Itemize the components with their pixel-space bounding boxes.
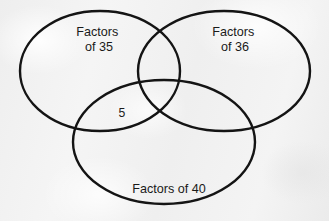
label-factors-of-35-line2: of 35 xyxy=(85,40,113,54)
region-label-value: 5 xyxy=(119,106,126,120)
venn-diagram-canvas: Factors of 35 Factors of 36 Factors of 4… xyxy=(0,0,329,221)
label-factors-of-36-line1: Factors xyxy=(212,25,254,39)
label-factors-of-35-line1: Factors xyxy=(76,25,118,39)
label-factors-of-40: Factors of 40 xyxy=(132,182,206,196)
label-factors-of-40-line1: Factors of 40 xyxy=(132,182,206,196)
label-factors-of-35: Factors of 35 xyxy=(76,25,122,54)
label-factors-of-36-line2: of 36 xyxy=(221,40,249,54)
label-factors-of-36: Factors of 36 xyxy=(212,25,258,54)
venn-diagram-figure: Factors of 35 Factors of 36 Factors of 4… xyxy=(0,0,329,221)
region-label-left-bottom-intersection: 5 xyxy=(119,106,126,120)
